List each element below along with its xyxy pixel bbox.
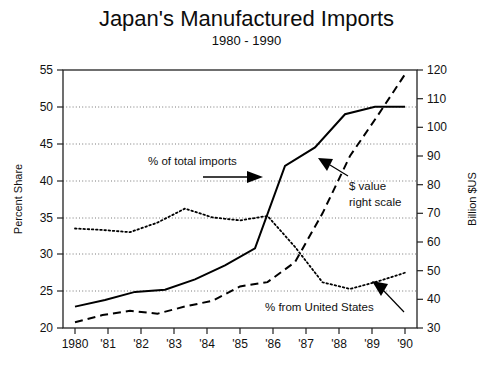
- xtick-86: '86: [265, 337, 281, 351]
- annotation-pct-total-imports: % of total imports: [148, 155, 263, 183]
- xtick-90: '90: [397, 337, 413, 351]
- plot-area: 55 50 45 40 35 30 25 20 Percent Share 12: [0, 0, 493, 366]
- x-axis-tick-labels: 1980 '81 '82 '83 '84 '85 '86 '87 '88 '89…: [62, 337, 413, 351]
- ytick-right-80: 80: [427, 178, 441, 192]
- ytick-right-70: 70: [427, 206, 441, 220]
- arrow-up-right-icon: [372, 281, 388, 296]
- ytick-45: 45: [40, 137, 54, 151]
- ytick-25: 25: [40, 284, 54, 298]
- right-axis-tick-labels: 120 110 100 90 80 70 60 50 40 30: [427, 63, 447, 335]
- left-axis-tick-labels: 55 50 45 40 35 30 25 20: [40, 63, 54, 335]
- ytick-55: 55: [40, 63, 54, 77]
- ytick-right-40: 40: [427, 292, 441, 306]
- series-line-pct-united-states: [75, 209, 405, 289]
- ytick-right-120: 120: [427, 63, 447, 77]
- ytick-right-110: 110: [427, 92, 446, 106]
- ytick-50: 50: [40, 100, 54, 114]
- xtick-87: '87: [298, 337, 314, 351]
- ytick-20: 20: [40, 321, 54, 335]
- right-axis-ticks: [417, 70, 423, 328]
- annotation-dollar-value-label-line2: right scale: [349, 196, 401, 208]
- ytick-right-50: 50: [427, 264, 441, 278]
- left-axis-ticks: [57, 70, 63, 328]
- xtick-82: '82: [133, 337, 149, 351]
- ytick-40: 40: [40, 174, 54, 188]
- annotation-dollar-value: $ value right scale: [318, 158, 401, 208]
- y-axis-label-right: Billion $US: [466, 172, 478, 226]
- xtick-89: '89: [364, 337, 380, 351]
- ytick-35: 35: [40, 211, 54, 225]
- xtick-1980: 1980: [62, 337, 89, 351]
- xtick-85: '85: [232, 337, 248, 351]
- annotation-pct-united-states-label: % from United States: [265, 301, 374, 313]
- ytick-30: 30: [40, 247, 54, 261]
- xtick-88: '88: [331, 337, 347, 351]
- y-axis-label-left: Percent Share: [12, 164, 24, 234]
- ytick-right-60: 60: [427, 235, 441, 249]
- xtick-83: '83: [166, 337, 182, 351]
- xtick-84: '84: [199, 337, 215, 351]
- xtick-81: '81: [100, 337, 116, 351]
- ytick-right-90: 90: [427, 149, 441, 163]
- x-axis-ticks: [75, 328, 405, 334]
- chart-figure: Japan's Manufactured Imports 1980 - 1990: [0, 0, 493, 366]
- arrow-up-left-icon: [318, 158, 333, 171]
- ytick-right-100: 100: [427, 120, 447, 134]
- ytick-right-30: 30: [427, 321, 441, 335]
- annotation-pct-total-imports-label: % of total imports: [148, 155, 237, 167]
- annotation-dollar-value-label-line1: $ value: [349, 180, 386, 192]
